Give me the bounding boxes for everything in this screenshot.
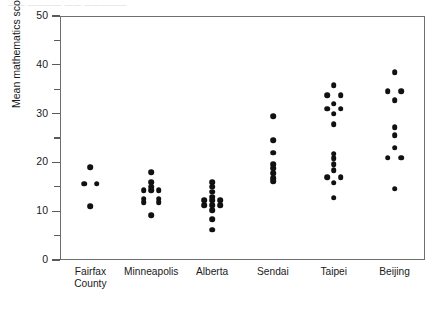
data-point — [209, 227, 215, 233]
data-point — [331, 162, 337, 168]
data-point — [88, 164, 94, 170]
x-axis-category-line: Alberta — [182, 266, 243, 278]
data-point — [270, 113, 276, 119]
y-tick-minor — [54, 40, 60, 41]
data-point — [331, 195, 337, 201]
data-point — [399, 155, 405, 161]
data-point — [156, 187, 162, 193]
x-axis-category-label: Sendai — [243, 266, 304, 278]
x-axis-category-line: Taipei — [303, 266, 364, 278]
data-point — [217, 203, 223, 209]
x-axis-category-label: Alberta — [182, 266, 243, 278]
y-tick-label: 40 — [14, 58, 48, 70]
y-tick-label: 10 — [14, 204, 48, 216]
data-point — [270, 178, 276, 184]
x-axis-category-label: FairfaxCounty — [60, 266, 121, 289]
data-point — [148, 212, 154, 218]
data-point — [88, 204, 94, 210]
data-point — [392, 132, 398, 138]
data-point — [81, 181, 87, 187]
data-point — [324, 174, 330, 180]
data-point — [392, 145, 398, 151]
dot-plot-chart: —— ———— —— ————— Mean mathematics score … — [0, 0, 443, 314]
data-point — [94, 181, 100, 187]
y-tick-label: 30 — [14, 107, 48, 119]
data-point — [338, 92, 344, 98]
data-point — [331, 167, 337, 173]
y-tick-major — [52, 259, 60, 260]
x-axis-category-label: Beijing — [364, 266, 425, 278]
data-point — [331, 156, 337, 162]
data-point — [324, 106, 330, 112]
data-point — [338, 174, 344, 180]
data-point — [331, 82, 337, 88]
data-point — [399, 88, 405, 94]
data-point — [148, 187, 154, 193]
data-point — [392, 97, 398, 103]
data-point — [338, 106, 344, 112]
y-tick-major — [52, 113, 60, 114]
x-axis-category-line: County — [60, 278, 121, 290]
y-tick-minor — [54, 235, 60, 236]
data-point — [324, 92, 330, 98]
data-point — [331, 101, 337, 107]
data-point — [270, 137, 276, 143]
y-tick-minor — [54, 89, 60, 90]
x-axis-category-line: Fairfax — [60, 266, 121, 278]
x-axis-category-label: Taipei — [303, 266, 364, 278]
y-tick-major — [52, 64, 60, 65]
x-axis-category-line: Beijing — [364, 266, 425, 278]
running-head: —— ———— —— ————— — [8, 0, 268, 9]
y-tick-major — [52, 162, 60, 163]
data-point — [141, 200, 147, 206]
data-point — [392, 69, 398, 75]
data-point — [209, 207, 215, 213]
data-point — [392, 124, 398, 130]
data-point — [331, 111, 337, 117]
data-point — [392, 186, 398, 192]
data-point — [209, 216, 215, 222]
y-tick-label: 0 — [14, 253, 48, 265]
data-point — [331, 122, 337, 128]
y-tick-minor — [54, 186, 60, 187]
x-axis-category-line: Minneapolis — [121, 266, 182, 278]
data-point — [156, 200, 162, 206]
data-point — [385, 88, 391, 94]
x-axis-category-line: Sendai — [243, 266, 304, 278]
y-tick-label: 50 — [14, 9, 48, 21]
data-point — [385, 155, 391, 161]
plot-area — [60, 16, 425, 260]
y-tick-major — [52, 15, 60, 16]
y-tick-major — [52, 211, 60, 212]
data-point — [331, 180, 337, 186]
y-tick-minor — [54, 137, 60, 138]
y-tick-label: 20 — [14, 155, 48, 167]
x-axis-category-label: Minneapolis — [121, 266, 182, 278]
data-point — [141, 187, 147, 193]
data-point — [270, 150, 276, 156]
data-point — [148, 169, 154, 175]
data-point — [201, 203, 207, 209]
